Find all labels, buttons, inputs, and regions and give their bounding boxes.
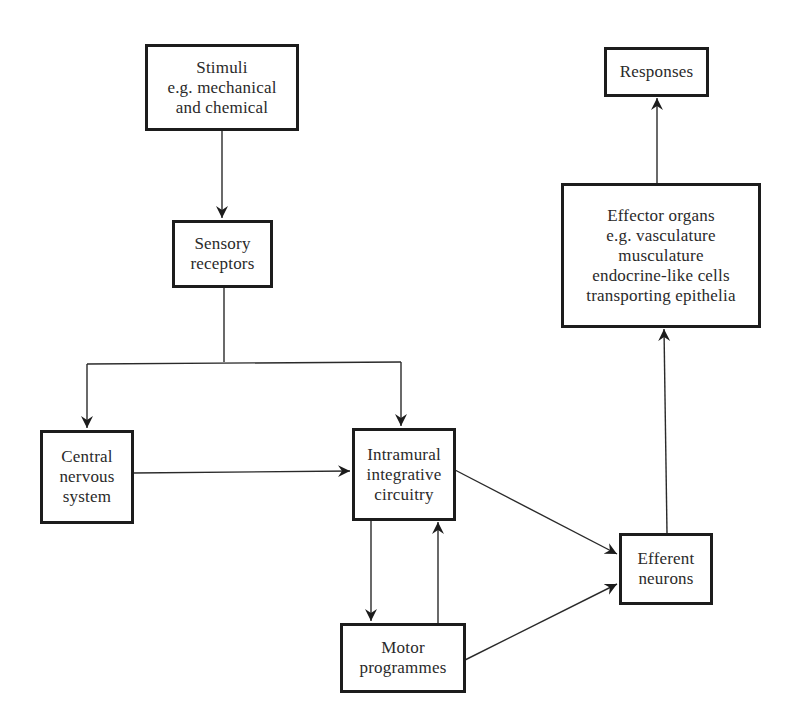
node-label: system <box>63 487 111 507</box>
node-efferent-neurons: Efferent neurons <box>619 533 713 605</box>
edge-intramural-to-efferent <box>455 470 617 554</box>
node-label: nervous <box>59 467 114 487</box>
node-label: Stimuli <box>196 58 247 78</box>
node-label: receptors <box>190 254 254 274</box>
node-label: Effector organs <box>607 206 715 226</box>
node-label: Central <box>61 447 112 467</box>
node-stimuli: Stimuli e.g. mechanical and chemical <box>145 44 299 131</box>
edge-cns-to-intramural <box>133 471 350 473</box>
node-label: Intramural <box>367 445 441 465</box>
node-label: integrative <box>367 465 442 485</box>
node-label: Motor <box>381 638 425 658</box>
node-central-nervous-system: Central nervous system <box>40 430 134 524</box>
connector-layer <box>0 0 793 727</box>
node-label: Sensory <box>194 234 250 254</box>
node-label: programmes <box>360 658 447 678</box>
node-sensory-receptors: Sensory receptors <box>172 220 273 288</box>
edge-efferent-to-effector <box>664 329 667 533</box>
node-responses: Responses <box>604 47 709 97</box>
node-label: e.g. mechanical <box>167 78 276 98</box>
edge-motor-to-efferent <box>465 584 617 660</box>
node-label: endocrine-like cells <box>592 266 730 286</box>
node-intramural-integrative-circuitry: Intramural integrative circuitry <box>352 428 456 521</box>
node-effector-organs: Effector organs e.g. vasculature muscula… <box>561 183 761 328</box>
node-label: circuitry <box>374 485 433 505</box>
node-label: e.g. vasculature <box>606 226 715 246</box>
node-label: transporting epithelia <box>586 286 735 306</box>
node-label: Responses <box>620 62 694 82</box>
node-label: musculature <box>618 246 703 266</box>
node-label: neurons <box>638 569 693 589</box>
node-motor-programmes: Motor programmes <box>340 623 466 693</box>
node-label: and chemical <box>176 98 269 118</box>
node-label: Efferent <box>638 549 695 569</box>
edge-split-bar <box>87 362 401 364</box>
